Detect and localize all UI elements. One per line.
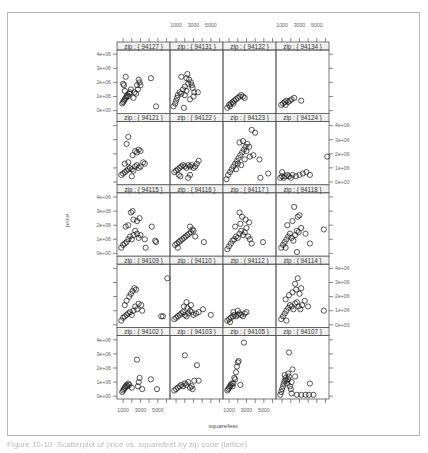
caption-text: Figure 10-10. Scatterplot of price vs. s… xyxy=(7,440,307,449)
y-tick-label: 0e+00 xyxy=(96,250,111,256)
data-point xyxy=(247,220,252,225)
x-tick-label-top: 1000 xyxy=(276,22,288,28)
data-point xyxy=(241,340,246,345)
data-point xyxy=(243,217,248,222)
data-point xyxy=(181,105,186,110)
data-point xyxy=(266,171,271,176)
data-point xyxy=(126,160,131,165)
data-point xyxy=(142,161,147,166)
data-point xyxy=(237,140,242,145)
panel-box xyxy=(170,193,223,256)
panel-zip-94134: zip : { 94134 } xyxy=(276,42,329,113)
data-point xyxy=(122,161,127,166)
y-tick-label: 1e+06 xyxy=(96,93,111,99)
panel-zip-94109: zip : { 94109 } xyxy=(117,256,170,327)
strip-label: zip : { 94134 } xyxy=(283,43,322,51)
data-point xyxy=(154,104,159,109)
data-point xyxy=(251,153,256,158)
y-tick-label: 2e+06 xyxy=(335,151,350,157)
strip-label: zip : { 94118 } xyxy=(283,186,321,194)
y-tick-label: 0e+00 xyxy=(335,322,350,328)
x-tick-label-bottom: 1000 xyxy=(117,407,129,413)
data-point xyxy=(293,174,298,179)
data-point xyxy=(321,308,326,313)
data-point xyxy=(154,387,159,392)
y-tick-label: 2e+06 xyxy=(96,79,111,85)
data-point xyxy=(286,350,291,355)
panel-zip-94124: zip : { 94124 } xyxy=(276,113,330,184)
data-point xyxy=(233,224,238,229)
x-tick-label-bottom: 5000 xyxy=(258,407,270,413)
data-point xyxy=(321,227,326,232)
data-point xyxy=(297,172,302,177)
strip-label: zip : { 94102 } xyxy=(124,328,163,336)
data-point xyxy=(294,249,299,254)
data-point xyxy=(140,308,145,313)
data-point xyxy=(126,311,131,316)
strip-label: zip : { 94117 } xyxy=(230,186,268,194)
data-point xyxy=(293,281,298,286)
data-point xyxy=(304,170,309,175)
data-point xyxy=(242,95,247,100)
data-point xyxy=(285,172,290,177)
panel-zip-94127: zip : { 94127 } xyxy=(117,42,170,113)
y-tick-label: 1e+06 xyxy=(335,165,350,171)
panel-zip-94131: zip : { 94131 } xyxy=(170,42,223,113)
panel-box xyxy=(170,264,223,327)
data-point xyxy=(249,127,254,132)
data-point xyxy=(299,98,304,103)
data-point xyxy=(143,245,148,250)
panel-zip-94116: zip : { 94116 } xyxy=(170,185,223,256)
panel-box xyxy=(170,336,223,399)
x-tick-label-bottom: 1000 xyxy=(223,407,235,413)
data-point xyxy=(129,174,134,179)
data-point xyxy=(176,172,181,177)
y-tick-label: 3e+06 xyxy=(335,137,350,143)
data-point xyxy=(290,218,295,223)
panel-zip-94103: zip : { 94103 } xyxy=(170,328,223,399)
data-point xyxy=(124,141,129,146)
x-tick-label-bottom: 5000 xyxy=(152,407,164,413)
panel-zip-94112: zip : { 94112 } xyxy=(223,256,276,327)
y-tick-label: 4e+06 xyxy=(335,122,350,128)
data-point xyxy=(236,358,241,363)
data-point xyxy=(303,231,308,236)
data-point xyxy=(240,139,245,144)
data-point xyxy=(131,95,136,100)
data-point xyxy=(194,363,199,368)
data-point xyxy=(307,172,312,177)
data-point xyxy=(179,311,184,316)
strip-label: zip : { 94116 } xyxy=(177,186,215,194)
y-tick-label: 0e+00 xyxy=(96,393,111,399)
data-point xyxy=(300,171,305,176)
data-point xyxy=(292,204,297,209)
data-point xyxy=(148,76,153,81)
data-point xyxy=(286,293,291,298)
strip-label: zip : { 94107 } xyxy=(283,328,322,336)
data-point xyxy=(141,160,146,165)
strip-label: zip : { 94123 } xyxy=(230,114,269,122)
y-tick-label: 2e+06 xyxy=(96,222,111,228)
y-tick-label: 3e+06 xyxy=(96,65,111,71)
panel-zip-94107: zip : { 94107 } xyxy=(276,328,329,399)
data-point xyxy=(195,90,200,95)
data-point xyxy=(247,154,252,159)
strip-label: zip : { 94115 } xyxy=(124,186,162,194)
data-point xyxy=(182,353,187,358)
panel-box xyxy=(117,264,170,327)
data-point xyxy=(249,241,254,246)
strip-label: zip : { 94110 } xyxy=(177,257,215,265)
data-point xyxy=(244,225,249,230)
data-point xyxy=(149,224,154,229)
strip-label: zip : { 94127 } xyxy=(124,43,163,51)
panel-zip-94105: zip : { 94105 } xyxy=(223,328,276,399)
data-point xyxy=(233,370,238,375)
data-point xyxy=(293,374,298,379)
panel-zip-94132: zip : { 94132 } xyxy=(223,42,276,113)
data-point xyxy=(131,217,136,222)
data-point xyxy=(260,240,265,245)
x-tick-label-top: 3000 xyxy=(188,22,200,28)
data-point xyxy=(208,312,213,317)
data-point xyxy=(128,210,133,215)
y-tick-label: 1e+06 xyxy=(96,379,111,385)
